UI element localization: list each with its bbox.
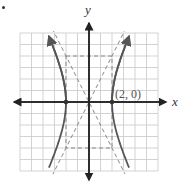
hyperbola-graph: [0, 0, 189, 185]
x-axis-label: x: [172, 94, 178, 110]
axes: [14, 23, 166, 180]
vertex-label: (2, 0): [115, 87, 141, 102]
y-axis-label: y: [85, 2, 91, 18]
